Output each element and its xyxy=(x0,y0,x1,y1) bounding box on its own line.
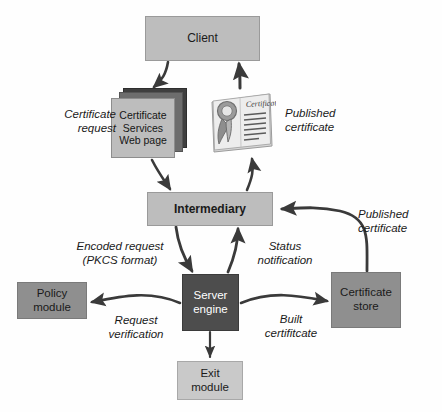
edge-client-to-webpage xyxy=(154,62,168,87)
node-client-label: Client xyxy=(187,31,218,45)
label-published-certificate-top: Published certificate xyxy=(285,107,389,135)
node-intermediary-label: Intermediary xyxy=(174,202,246,216)
edge-intermediary-to-certificate xyxy=(247,159,253,190)
node-exit-module-label: Exit module xyxy=(191,367,229,394)
edge-certificate-to-client xyxy=(239,64,240,88)
node-exit-module[interactable]: Exit module xyxy=(177,361,243,400)
node-policy-module-label: Policy module xyxy=(33,287,71,314)
node-server-engine-label: Server engine xyxy=(193,289,228,316)
diagram-canvas: Client Certificate Services Web page Cer… xyxy=(0,0,442,412)
label-status-notification: Status notification xyxy=(237,240,333,268)
webpage-label-wrap: Certificate Services Web page xyxy=(111,98,175,158)
label-published-certificate-right: Published certificate xyxy=(358,208,442,236)
node-certificate-services-web-page-label: Certificate Services Web page xyxy=(119,109,167,147)
node-server-engine[interactable]: Server engine xyxy=(182,274,239,331)
node-intermediary[interactable]: Intermediary xyxy=(147,192,273,226)
node-client[interactable]: Client xyxy=(145,16,260,61)
node-certificate-store-label: Certificate store xyxy=(340,286,392,313)
label-certificate-request: Certificate request xyxy=(20,108,116,136)
edge-server-to-policy xyxy=(92,295,180,303)
label-encoded-request: Encoded request (PKCS format) xyxy=(62,240,178,268)
svg-text:Certificate: Certificate xyxy=(246,98,276,109)
edge-webpage-to-intermediary xyxy=(152,160,170,189)
published-certificate-icon: Certificate xyxy=(206,88,276,158)
label-request-verification: Request verification xyxy=(82,314,190,342)
edge-server-to-certstore xyxy=(241,295,327,303)
edge-intermediary-to-server xyxy=(176,227,192,271)
label-built-certificate: Built certifitcate xyxy=(238,313,344,341)
node-policy-module[interactable]: Policy module xyxy=(17,282,87,319)
node-certificate-services-web-page[interactable]: Certificate Services Web page xyxy=(111,88,187,160)
